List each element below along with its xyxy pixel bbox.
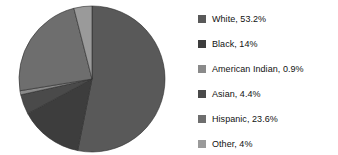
legend-item-hispanic: Hispanic, 23.6% <box>198 114 278 124</box>
pie-chart-svg <box>0 0 190 155</box>
legend-item-black: Black, 14% <box>198 39 258 49</box>
pie-chart-figure: White, 53.2% Black, 14% American Indian,… <box>0 0 338 155</box>
legend-item-other: Other, 4% <box>198 139 252 149</box>
legend-item-white: White, 53.2% <box>198 14 266 24</box>
legend-item-asian: Asian, 4.4% <box>198 89 261 99</box>
legend-label-white: White, 53.2% <box>212 14 266 24</box>
legend-label-hispanic: Hispanic, 23.6% <box>212 114 278 124</box>
legend-label-asian: Asian, 4.4% <box>212 89 261 99</box>
pie-plot-area <box>0 0 190 155</box>
legend-label-other: Other, 4% <box>212 139 252 149</box>
chart-legend: White, 53.2% Black, 14% American Indian,… <box>190 0 338 155</box>
legend-swatch-white <box>198 15 206 23</box>
legend-label-black: Black, 14% <box>212 39 258 49</box>
legend-swatch-asian <box>198 90 206 98</box>
legend-swatch-black <box>198 40 206 48</box>
legend-swatch-american-indian <box>198 65 206 73</box>
legend-item-american-indian: American Indian, 0.9% <box>198 64 304 74</box>
legend-swatch-hispanic <box>198 115 206 123</box>
pie-slices-group <box>19 6 165 152</box>
legend-label-american-indian: American Indian, 0.9% <box>212 64 304 74</box>
legend-swatch-other <box>198 140 206 148</box>
